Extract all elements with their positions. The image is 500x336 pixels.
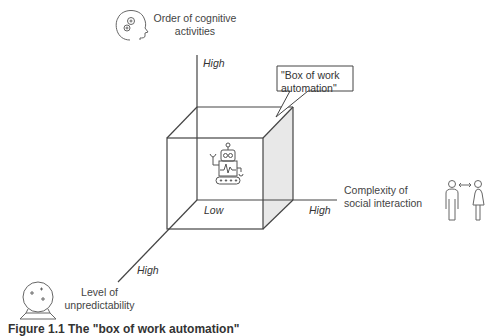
head-gears-icon <box>116 11 148 41</box>
vertical-high-label: High <box>203 57 225 69</box>
horizontal-high-label: High <box>309 204 331 216</box>
label-line: unpredictability <box>62 299 137 312</box>
crystal-ball-icon <box>20 282 56 319</box>
vertical-axis-label: Order of cognitive activities <box>150 12 240 38</box>
figure-caption: Figure 1.1 The "box of work automation" <box>8 322 239 336</box>
people-interaction-icon <box>446 181 484 221</box>
label-line: activities <box>150 25 240 38</box>
callout-text: "Box of work automation" <box>281 69 353 95</box>
robot-icon <box>210 143 243 184</box>
label-line: Order of cognitive <box>150 12 240 25</box>
label-line: Complexity of <box>344 184 434 197</box>
diagonal-axis-label: Level of unpredictability <box>62 286 137 312</box>
origin-low-label: Low <box>204 204 223 216</box>
horizontal-axis-label: Complexity of social interaction <box>344 184 434 210</box>
label-line: social interaction <box>344 197 434 210</box>
label-line: Level of <box>62 286 137 299</box>
cube-right-face <box>263 107 293 229</box>
diagonal-high-label: High <box>137 264 159 276</box>
